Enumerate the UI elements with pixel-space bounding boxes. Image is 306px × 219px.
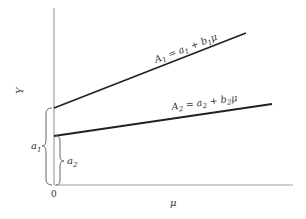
x-axis-label: μ [170,197,177,208]
y-axis-label: Y [14,86,25,94]
brace-a1 [42,108,52,185]
brace-a2 [56,136,64,185]
origin-label: 0 [51,189,57,199]
intercept-a2-label: a2 [67,155,78,169]
intercept-diagram: Y 0 μ a1 a2 A1 = a1 + b1μ A2 = a2 + b2μ [0,0,306,219]
line-a2 [54,104,272,136]
intercept-a1-label: a1 [31,140,41,154]
equation-a1-label: A1 = a1 + b1μ [152,31,220,68]
